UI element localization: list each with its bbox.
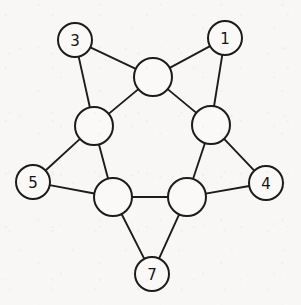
node-label: 7 <box>147 266 157 284</box>
graph-edge <box>50 185 95 193</box>
graph-node-labeled[interactable]: 3 <box>58 23 92 57</box>
graph-node-labeled[interactable]: 5 <box>16 165 50 199</box>
graph-edge <box>214 55 222 106</box>
node-label: 3 <box>70 32 80 50</box>
graph-edge <box>79 57 90 108</box>
graph-edge <box>159 214 179 258</box>
graph-edge <box>46 139 80 171</box>
graph-node-labeled[interactable]: 4 <box>249 166 283 200</box>
graph-edge <box>170 46 210 68</box>
graph-edge <box>122 214 145 259</box>
graph-edge <box>99 144 108 178</box>
node-circle[interactable] <box>75 107 113 145</box>
graph-diagram-figure: 31547 <box>0 0 301 305</box>
graph-edge <box>193 143 205 179</box>
nodes-layer: 31547 <box>16 21 283 291</box>
graph-node-labeled[interactable]: 7 <box>135 257 169 291</box>
graph-edge <box>168 89 197 113</box>
graph-node-labeled[interactable]: 1 <box>208 21 242 55</box>
graph-edge <box>224 139 254 171</box>
graph-edge <box>109 89 139 114</box>
graph-edge <box>206 186 250 194</box>
node-circle[interactable] <box>134 58 172 96</box>
graph-canvas: 31547 <box>0 0 301 305</box>
node-circle[interactable] <box>168 178 206 216</box>
graph-node-unlabeled[interactable] <box>134 58 172 96</box>
graph-node-unlabeled[interactable] <box>168 178 206 216</box>
graph-edge <box>90 47 135 69</box>
graph-node-unlabeled[interactable] <box>192 106 230 144</box>
node-label: 1 <box>220 30 230 48</box>
graph-node-unlabeled[interactable] <box>94 178 132 216</box>
node-label: 5 <box>28 174 38 192</box>
node-label: 4 <box>261 175 271 193</box>
graph-node-unlabeled[interactable] <box>75 107 113 145</box>
node-circle[interactable] <box>192 106 230 144</box>
node-circle[interactable] <box>94 178 132 216</box>
